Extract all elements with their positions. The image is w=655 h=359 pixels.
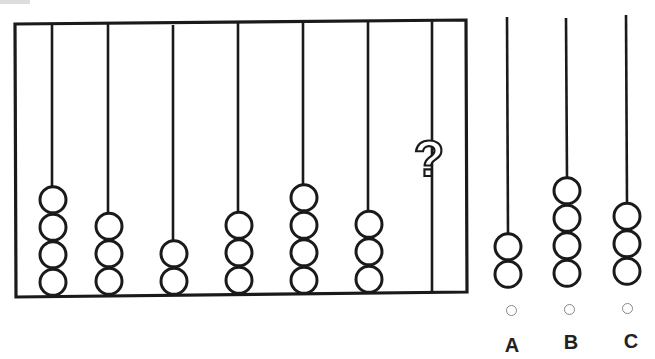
bead (226, 240, 252, 266)
bead (554, 178, 580, 204)
bead (291, 185, 317, 211)
option-c-radio[interactable] (622, 303, 633, 314)
bead (495, 234, 521, 260)
option-b-radio[interactable] (564, 304, 575, 315)
bead (96, 268, 122, 294)
bead (96, 213, 122, 239)
bead (40, 242, 66, 268)
bead (554, 205, 580, 231)
option-c-label: C (624, 330, 638, 353)
bead (554, 260, 580, 286)
bead (40, 269, 66, 295)
option-a-label: A (505, 334, 519, 357)
bead (356, 266, 382, 292)
bead (291, 212, 317, 238)
abacus-diagram: ? (0, 0, 655, 359)
bead (40, 214, 66, 240)
option-b-rod (554, 18, 580, 286)
bead (161, 241, 187, 267)
abacus-rod-2 (96, 23, 122, 294)
option-a-rod (495, 17, 521, 287)
bead (356, 211, 382, 237)
abacus-rod-5 (291, 22, 317, 293)
bead (291, 240, 317, 266)
bead (40, 187, 66, 213)
bead (226, 212, 252, 238)
bead (614, 203, 640, 229)
option-rods (495, 15, 640, 287)
abacus-rod-6 (356, 21, 382, 292)
abacus-puzzle: ? A B C (0, 0, 655, 359)
question-mark-icon: ? (414, 131, 445, 187)
abacus-rod-3 (161, 25, 187, 294)
bead (554, 233, 580, 259)
abacus-rod-4 (226, 23, 252, 293)
bead (291, 267, 317, 293)
option-c-rod (614, 15, 640, 284)
bead (495, 261, 521, 287)
abacus-rod-1 (40, 24, 66, 295)
bead (614, 231, 640, 257)
bead (161, 268, 187, 294)
bead (96, 241, 122, 267)
bead (226, 267, 252, 293)
option-b-label: B (564, 331, 578, 354)
svg-text:?: ? (414, 131, 445, 187)
bead (614, 258, 640, 284)
frame-rods (40, 20, 432, 295)
bead (356, 239, 382, 265)
option-a-radio[interactable] (506, 305, 517, 316)
